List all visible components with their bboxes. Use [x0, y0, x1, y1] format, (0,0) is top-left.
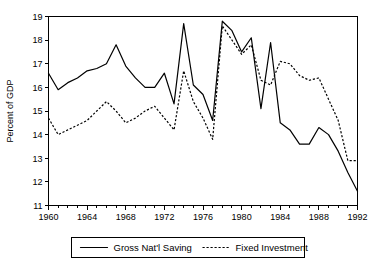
x-tick-label: 1984 — [270, 212, 290, 222]
x-tick-label: 1960 — [38, 212, 58, 222]
y-axis-title: Percent of GDP — [5, 79, 15, 142]
x-tick-label: 1972 — [154, 212, 174, 222]
chart-canvas: 1112131415161718191960196419681972197619… — [0, 0, 378, 268]
x-tick-label: 1988 — [309, 212, 329, 222]
chart-series — [49, 21, 358, 191]
x-tick-label: 1976 — [193, 212, 213, 222]
x-tick-label: 1964 — [77, 212, 97, 222]
x-tick-label: 1980 — [232, 212, 252, 222]
chart-figure: 1112131415161718191960196419681972197619… — [0, 0, 378, 268]
x-tick-label: 1992 — [347, 212, 367, 222]
x-tick-label: 1968 — [116, 212, 136, 222]
y-tick-label: 13 — [32, 154, 42, 164]
chart-axes — [45, 17, 358, 210]
series-line-solid — [49, 21, 358, 191]
y-tick-label: 16 — [32, 83, 42, 93]
plot-frame — [49, 17, 358, 206]
y-tick-label: 18 — [32, 35, 42, 45]
y-tick-label: 17 — [32, 59, 42, 69]
y-tick-label: 15 — [32, 106, 42, 116]
y-tick-label: 14 — [32, 130, 42, 140]
legend-label-dotted: Fixed Investment — [236, 242, 309, 253]
legend-label-solid: Gross Nat'l Saving — [114, 242, 192, 253]
y-tick-label: 11 — [33, 201, 42, 211]
chart-legend[interactable]: Gross Nat'l SavingFixed Investment — [72, 238, 309, 258]
y-tick-label: 12 — [32, 177, 42, 187]
y-tick-label: 19 — [32, 12, 42, 22]
